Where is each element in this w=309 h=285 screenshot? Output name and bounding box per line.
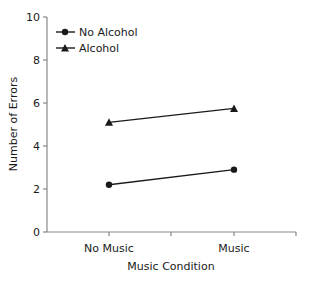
- series-alcohol: [105, 104, 238, 125]
- y-tick-label: 4: [33, 140, 40, 153]
- x-tick-label: No Music: [84, 242, 134, 255]
- circle-marker-icon: [231, 166, 237, 172]
- data-series: [105, 104, 238, 188]
- series-line: [109, 108, 234, 122]
- circle-marker-icon: [62, 29, 68, 35]
- y-tick-label: 6: [33, 97, 40, 110]
- legend-label: Alcohol: [79, 42, 119, 55]
- y-axis-ticks: 0246810: [26, 11, 47, 239]
- legend-item: Alcohol: [56, 42, 119, 55]
- series-line: [109, 170, 234, 185]
- series-no-alcohol: [106, 166, 237, 187]
- y-tick-label: 2: [33, 183, 40, 196]
- x-tick-label: Music: [218, 242, 249, 255]
- legend: No AlcoholAlcohol: [56, 26, 138, 55]
- x-axis-ticks: No MusicMusic: [84, 232, 296, 255]
- x-axis-title: Music Condition: [127, 260, 214, 273]
- circle-marker-icon: [106, 182, 112, 188]
- y-tick-label: 10: [26, 11, 40, 24]
- legend-label: No Alcohol: [79, 26, 138, 39]
- line-chart: 0246810 No MusicMusic No AlcoholAlcohol …: [0, 0, 309, 285]
- y-axis-title: Number of Errors: [7, 77, 20, 172]
- y-tick-label: 8: [33, 54, 40, 67]
- y-tick-label: 0: [33, 226, 40, 239]
- legend-item: No Alcohol: [56, 26, 138, 39]
